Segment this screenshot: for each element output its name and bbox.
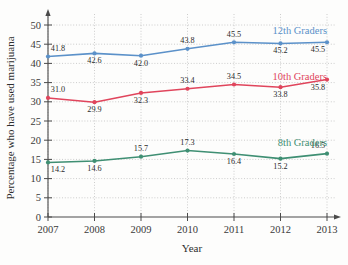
x-axis-tick-label: 2010 bbox=[177, 224, 198, 235]
chart-canvas: 05101520253035404550 2007200820092010201… bbox=[0, 0, 348, 265]
y-axis-tick-label: 10 bbox=[31, 173, 42, 184]
y-axis-tick-labels: 05101520253035404550 bbox=[31, 20, 42, 223]
data-point-label: 15.7 bbox=[134, 144, 148, 153]
data-point-label: 42.6 bbox=[87, 56, 101, 65]
x-axis-tick-label: 2008 bbox=[84, 224, 105, 235]
data-point bbox=[46, 54, 50, 58]
data-point bbox=[46, 96, 50, 100]
data-point bbox=[325, 152, 329, 156]
data-point bbox=[139, 54, 143, 58]
x-axis-title: Year bbox=[182, 242, 203, 254]
data-point bbox=[139, 155, 143, 159]
data-point-label: 15.2 bbox=[273, 162, 287, 171]
y-axis-tick-label: 0 bbox=[36, 212, 41, 223]
data-point-label: 35.8 bbox=[311, 83, 325, 92]
series-legend-label: 10th Graders bbox=[272, 71, 327, 82]
y-axis-tick-label: 45 bbox=[31, 39, 42, 50]
data-point-label: 14.2 bbox=[51, 165, 65, 174]
y-axis-tick-label: 50 bbox=[31, 20, 42, 31]
data-point-label: 29.9 bbox=[87, 105, 101, 114]
data-point bbox=[232, 40, 236, 44]
data-point bbox=[46, 160, 50, 164]
data-point bbox=[185, 47, 189, 51]
data-point-label: 33.8 bbox=[273, 90, 287, 99]
y-axis-tick-label: 35 bbox=[31, 77, 42, 88]
data-point bbox=[325, 40, 329, 44]
data-point-label: 16.4 bbox=[227, 157, 241, 166]
x-axis-tick-label: 2012 bbox=[270, 224, 291, 235]
y-axis-tick-label: 40 bbox=[31, 58, 42, 69]
x-axis-tick-labels: 2007200820092010201120122013 bbox=[38, 224, 338, 235]
data-point bbox=[92, 159, 96, 163]
data-point-label: 17.3 bbox=[180, 138, 194, 147]
data-point bbox=[278, 85, 282, 89]
y-axis-tick-label: 5 bbox=[36, 192, 41, 203]
series-legend-label: 12th Graders bbox=[272, 25, 327, 36]
data-point bbox=[92, 51, 96, 55]
data-point bbox=[185, 87, 189, 91]
data-point bbox=[232, 82, 236, 86]
y-axis-tick-label: 20 bbox=[31, 135, 42, 146]
y-axis-tick-label: 25 bbox=[31, 116, 42, 127]
data-point-label: 42.0 bbox=[134, 59, 148, 68]
y-axis-tick-label: 30 bbox=[31, 96, 42, 107]
data-point-label: 34.5 bbox=[227, 72, 241, 81]
data-point-label: 45.5 bbox=[311, 45, 325, 54]
x-axis-tick-label: 2007 bbox=[38, 224, 59, 235]
y-axis-title: Percentage who have used marijuana bbox=[4, 36, 16, 199]
data-point bbox=[278, 157, 282, 161]
data-point bbox=[232, 152, 236, 156]
data-point bbox=[185, 148, 189, 152]
x-axis-tick-label: 2013 bbox=[317, 224, 338, 235]
x-axis-tick-label: 2009 bbox=[131, 224, 152, 235]
series-legend-label: 8th Graders bbox=[278, 137, 327, 148]
data-point-label: 45.5 bbox=[227, 30, 241, 39]
data-point-label: 31.0 bbox=[51, 85, 65, 94]
data-point-label: 33.4 bbox=[180, 76, 194, 85]
data-point-label: 45.2 bbox=[273, 46, 287, 55]
data-point bbox=[278, 41, 282, 45]
data-point bbox=[92, 100, 96, 104]
x-axis-tick-label: 2011 bbox=[224, 224, 245, 235]
data-point bbox=[139, 91, 143, 95]
data-point-label: 41.8 bbox=[51, 44, 65, 53]
data-point-label: 14.6 bbox=[87, 164, 101, 173]
data-point-label: 43.8 bbox=[180, 36, 194, 45]
line-chart-figure: 05101520253035404550 2007200820092010201… bbox=[0, 0, 348, 265]
y-axis-tick-label: 15 bbox=[31, 154, 42, 165]
data-point-label: 32.3 bbox=[134, 96, 148, 105]
